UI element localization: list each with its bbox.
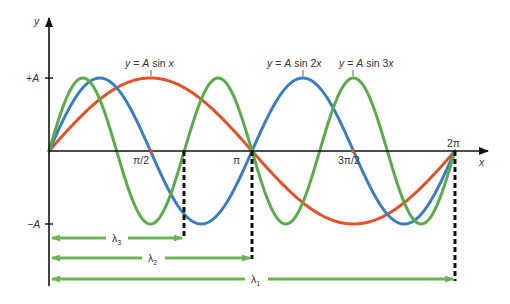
lambda2-label: λ2 xyxy=(148,252,157,266)
marker-pi-over-2 xyxy=(149,149,153,153)
tick-label-pi: π xyxy=(233,154,240,166)
tick-label-3pi-over-2: 3π/2 xyxy=(338,154,360,166)
tick-label-pi-over-2: π/2 xyxy=(133,154,149,166)
label-sin-x: y = A sin x xyxy=(124,57,175,69)
y-axis-label: y xyxy=(33,15,40,27)
label-sin-2x: y = A sin 2x xyxy=(266,57,322,69)
lambda3-label: λ3 xyxy=(112,232,121,246)
minus-a-label: −A xyxy=(27,218,40,230)
plus-a-label: +A xyxy=(26,72,39,84)
lambda1-label: λ1 xyxy=(251,273,260,287)
x-axis-label: x xyxy=(478,156,485,168)
marker-3pi-over-2 xyxy=(351,149,355,153)
label-sin-3x: y = A sin 3x xyxy=(338,57,394,69)
sine-wave-diagram: y x +A −A π/2 π 3π/2 2π y = A sin x y = … xyxy=(0,0,510,304)
tick-label-2pi: 2π xyxy=(447,137,460,149)
